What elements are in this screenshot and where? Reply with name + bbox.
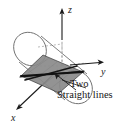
cylinder-plane-diagram: z y x <box>0 0 122 124</box>
y-axis-label: y <box>100 66 106 77</box>
figure-container: z y x <box>0 0 122 124</box>
callout-line-1: Two <box>70 78 89 89</box>
callout-line-2: Straight lines <box>57 89 113 100</box>
y-axis <box>70 60 104 66</box>
z-axis-label: z <box>67 4 72 15</box>
x-axis-label: x <box>10 112 16 123</box>
